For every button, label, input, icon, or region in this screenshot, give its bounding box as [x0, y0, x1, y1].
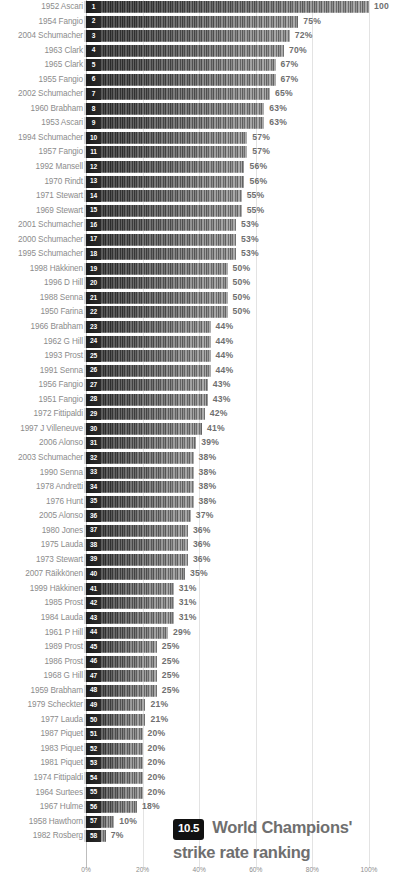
bar-row[interactable]: 1953 Ascari963% [0, 116, 401, 131]
bar-row[interactable]: 2006 Alonso3139% [0, 436, 401, 451]
bar-wrapper: 3 [86, 30, 290, 42]
bar-row[interactable]: 1956 Fangio2743% [0, 378, 401, 393]
bar-category-label: 2001 Schumacher [0, 218, 83, 231]
bar-row[interactable]: 2007 Räikkönen4035% [0, 567, 401, 582]
bar [86, 117, 264, 129]
bar [86, 350, 211, 362]
bar-wrapper: 54 [86, 772, 143, 784]
bar-row[interactable]: 1988 Senna2150% [0, 291, 401, 306]
bar-row[interactable]: 1955 Fangio667% [0, 73, 401, 88]
bar-row[interactable]: 1990 Senna3338% [0, 466, 401, 481]
bar-row[interactable]: 1964 Surtees5520% [0, 786, 401, 801]
bar-wrapper: 48 [86, 685, 157, 697]
bar-value-label: 50% [233, 291, 251, 303]
bar-row[interactable]: 1998 Häkkinen1950% [0, 262, 401, 277]
bar-rank-badge: 44 [86, 627, 101, 639]
bar-value-label: 41% [207, 422, 225, 434]
bar-row[interactable]: 1972 Fittipaldi2942% [0, 407, 401, 422]
bar-value-label: 38% [199, 495, 217, 507]
bar-row[interactable]: 2000 Schumacher1753% [0, 233, 401, 248]
bar-row[interactable]: 1957 Fangio1157% [0, 145, 401, 160]
bar-rows: 1952 Ascari11001954 Fangio275%2004 Schum… [0, 0, 401, 844]
bar-row[interactable]: 1960 Brabham863% [0, 102, 401, 117]
bar-row[interactable]: 2001 Schumacher1653% [0, 218, 401, 233]
bar-wrapper: 57 [86, 816, 114, 828]
bar-rank-number: 25 [90, 353, 97, 360]
bar-row[interactable]: 1977 Lauda5021% [0, 713, 401, 728]
bar-category-label: 1969 Stewart [0, 204, 83, 217]
bar-row[interactable]: 1999 Häkkinen4131% [0, 582, 401, 597]
bar-row[interactable]: 1993 Prost2544% [0, 349, 401, 364]
bar-row[interactable]: 1970 Rindt1356% [0, 175, 401, 190]
bar-rank-number: 9 [92, 120, 95, 127]
bar-row[interactable]: 1984 Lauda4331% [0, 611, 401, 626]
bar-value-label: 21% [150, 713, 168, 725]
bar-category-label: 1953 Ascari [0, 116, 83, 129]
bar-category-label: 1996 D Hill [0, 276, 83, 289]
bar-category-label: 1960 Brabham [0, 102, 83, 115]
bar-row[interactable]: 1967 Hulme5618% [0, 800, 401, 815]
bar-row[interactable]: 1978 Andretti3438% [0, 480, 401, 495]
bar-wrapper: 9 [86, 117, 264, 129]
bar [86, 437, 196, 449]
bar-row[interactable]: 1981 Piquet5320% [0, 756, 401, 771]
bar-row[interactable]: 1997 J Villeneuve3041% [0, 422, 401, 437]
bar-row[interactable]: 2004 Schumacher372% [0, 29, 401, 44]
bar-row[interactable]: 2005 Alonso3637% [0, 509, 401, 524]
bar-row[interactable]: 1986 Prost4625% [0, 655, 401, 670]
bar [86, 88, 270, 100]
bar-row[interactable]: 1995 Schumacher1853% [0, 247, 401, 262]
bar-row[interactable]: 1950 Farina2250% [0, 305, 401, 320]
bar-row[interactable]: 1985 Prost4231% [0, 596, 401, 611]
bar-row[interactable]: 1994 Schumacher1057% [0, 131, 401, 146]
bar-row[interactable]: 2003 Schumacher3238% [0, 451, 401, 466]
bar-rank-number: 47 [90, 673, 97, 680]
bar-row[interactable]: 1987 Piquet5120% [0, 727, 401, 742]
bar-row[interactable]: 1961 P Hill4429% [0, 626, 401, 641]
bar-row[interactable]: 1983 Piquet5220% [0, 742, 401, 757]
bar-rank-number: 42 [90, 600, 97, 607]
bar-wrapper: 51 [86, 728, 143, 740]
bar-row[interactable]: 1976 Hunt3538% [0, 495, 401, 510]
bar-rank-badge: 50 [86, 714, 101, 726]
bar-rank-badge: 20 [86, 277, 101, 289]
bar-wrapper: 18 [86, 248, 236, 260]
bar-row[interactable]: 1965 Clark567% [0, 58, 401, 73]
bar-rank-number: 3 [92, 33, 95, 40]
bar-row[interactable]: 1963 Clark470% [0, 44, 401, 59]
bar-row[interactable]: 1973 Stewart3936% [0, 553, 401, 568]
bar-row[interactable]: 1951 Fangio2843% [0, 393, 401, 408]
bar-wrapper: 50 [86, 714, 145, 726]
bar-rank-number: 43 [90, 615, 97, 622]
bar-row[interactable]: 1971 Stewart1455% [0, 189, 401, 204]
bar-row[interactable]: 2002 Schumacher765% [0, 87, 401, 102]
bar-category-label: 1979 Scheckter [0, 698, 83, 711]
bar-rank-number: 10 [90, 135, 97, 142]
bar-row[interactable]: 1966 Brabham2344% [0, 320, 401, 335]
bar-category-label: 2005 Alonso [0, 509, 83, 522]
bar-category-label: 1981 Piquet [0, 756, 83, 769]
bar-category-label: 1984 Lauda [0, 611, 83, 624]
bar-row[interactable]: 1989 Prost4525% [0, 640, 401, 655]
bar-value-label: 70% [289, 44, 307, 56]
bar-row[interactable]: 1952 Ascari1100 [0, 0, 401, 15]
bar-row[interactable]: 1992 Mansell1256% [0, 160, 401, 175]
bar-row[interactable]: 1962 G Hill2444% [0, 335, 401, 350]
bar-row[interactable]: 1996 D Hill2050% [0, 276, 401, 291]
bar-rank-number: 27 [90, 382, 97, 389]
bar-row[interactable]: 1974 Fittipaldi5420% [0, 771, 401, 786]
bar-wrapper: 33 [86, 467, 194, 479]
bar-row[interactable]: 1991 Senna2644% [0, 364, 401, 379]
bar-row[interactable]: 1959 Brabham4825% [0, 684, 401, 699]
bar-value-label: 20% [148, 742, 166, 754]
bar-rank-badge: 21 [86, 292, 101, 304]
bar-rank-number: 14 [90, 193, 97, 200]
bar-rank-number: 56 [90, 804, 97, 811]
bar-row[interactable]: 1980 Jones3736% [0, 524, 401, 539]
bar-row[interactable]: 1979 Scheckter4921% [0, 698, 401, 713]
bar-row[interactable]: 1975 Lauda3836% [0, 538, 401, 553]
bar-row[interactable]: 1954 Fangio275% [0, 15, 401, 30]
bar-row[interactable]: 1968 G Hill4725% [0, 669, 401, 684]
bar [86, 234, 236, 246]
bar-row[interactable]: 1969 Stewart1555% [0, 204, 401, 219]
